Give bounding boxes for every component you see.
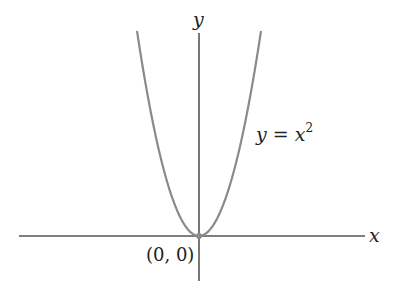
curve-label-base: y = x (255, 123, 306, 145)
parabola-chart: y x (0, 0) y = x2 (0, 0, 403, 288)
y-axis-label: y (192, 8, 204, 30)
x-axis-label: x (369, 224, 380, 246)
curve-label-exponent: 2 (305, 121, 313, 135)
curve-label: y = x2 (255, 121, 313, 145)
origin-label: (0, 0) (146, 244, 194, 265)
origin-point (196, 233, 202, 239)
